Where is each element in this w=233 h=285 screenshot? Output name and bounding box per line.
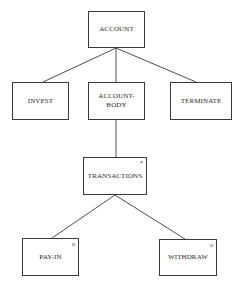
node-label: WITHDRAW <box>168 253 208 262</box>
node-transactions: * TRANSACTIONS <box>83 157 147 195</box>
edge-transactions-payin <box>52 195 115 238</box>
node-account-body: ACCOUNT- BODY <box>88 82 145 120</box>
selection-marker-icon: o <box>72 241 75 247</box>
node-pay-in: o PAY-IN <box>22 238 79 276</box>
node-label: PAY-IN <box>39 253 61 262</box>
node-label: INVEST <box>28 97 54 106</box>
selection-marker-icon: o <box>210 242 213 248</box>
edge-account-terminate <box>116 48 196 82</box>
node-terminate: TERMINATE <box>170 82 232 120</box>
node-label: TERMINATE <box>181 97 222 106</box>
node-invest: INVEST <box>12 82 69 120</box>
node-label: TRANSACTIONS <box>88 172 142 181</box>
node-label: ACCOUNT <box>99 25 134 34</box>
edge-account-invest <box>43 48 116 82</box>
node-label: ACCOUNT- BODY <box>98 92 134 110</box>
edge-transactions-withdraw <box>115 195 185 239</box>
iteration-marker-icon: * <box>140 160 143 166</box>
node-account: ACCOUNT <box>88 11 145 48</box>
node-withdraw: o WITHDRAW <box>159 239 217 276</box>
